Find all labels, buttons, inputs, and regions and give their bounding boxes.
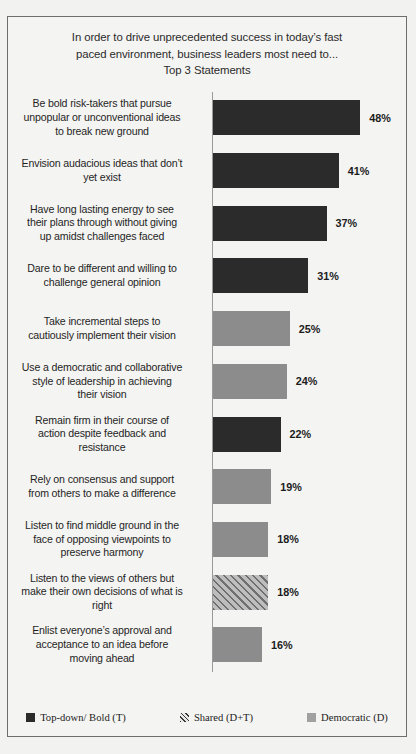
bar-category-label-line: from others to make a difference	[8, 487, 196, 501]
bar-value-label: 25%	[299, 323, 321, 335]
bar-topdown[interactable]	[213, 206, 327, 241]
bar-track: 25%	[204, 302, 406, 355]
bar-category-label-line: face of opposing viewpoints to	[8, 533, 196, 547]
bar-category-label: Have long lasting energy to seetheir pla…	[8, 203, 204, 244]
bar-category-label: Envision audacious ideas that don’tyet e…	[8, 157, 204, 184]
bar-value-label: 16%	[271, 639, 293, 651]
bar-category-label: Be bold risk-takers that pursueunpopular…	[8, 97, 204, 138]
chart-title-line-2: paced environment, business leaders most…	[30, 46, 384, 63]
bar-category-label-line: style of leadership in achieving	[8, 375, 196, 389]
bar-category-label-line: Rely on consensus and support	[8, 473, 196, 487]
chart-legend: Top-down/ Bold (T)Shared (D+T)Democratic…	[8, 712, 406, 723]
bar-democratic[interactable]	[213, 364, 287, 399]
bar-category-label-line: yet exist	[8, 171, 196, 185]
bar-category-label: Listen to the views of others butmake th…	[8, 572, 204, 613]
bar-category-label: Dare to be different and willing tochall…	[8, 262, 204, 289]
bar-row: Listen to the views of others butmake th…	[8, 566, 406, 619]
bar-category-label-line: preserve harmony	[8, 546, 196, 560]
bar-category-label-line: challenge general opinion	[8, 276, 196, 290]
legend-item-topdown[interactable]: Top-down/ Bold (T)	[26, 712, 126, 723]
legend-item-democratic[interactable]: Democratic (D)	[307, 712, 388, 723]
bar-track: 48%	[204, 92, 406, 145]
bar-track: 19%	[204, 460, 406, 513]
chart-title: In order to drive unprecedented success …	[30, 29, 384, 79]
bar-row: Rely on consensus and supportfrom others…	[8, 460, 406, 513]
bar-category-label-line: up amidst challenges faced	[8, 230, 196, 244]
bar-democratic[interactable]	[213, 469, 271, 504]
bar-category-label-line: their plans through without giving	[8, 216, 196, 230]
bar-track: 18%	[204, 566, 406, 619]
bar-value-label: 22%	[290, 428, 312, 440]
bar-category-label: Enlist everyone’s approval andacceptance…	[8, 624, 204, 665]
legend-item-shared[interactable]: Shared (D+T)	[180, 712, 253, 723]
legend-item-label: Shared (D+T)	[194, 712, 253, 723]
bar-category-label-line: resistance	[8, 441, 196, 455]
bar-topdown[interactable]	[213, 153, 339, 188]
bar-category-label-line: Be bold risk-takers that pursue	[8, 97, 196, 111]
bar-track: 24%	[204, 355, 406, 408]
bar-track: 37%	[204, 197, 406, 250]
bar-track: 22%	[204, 408, 406, 461]
plot-area: Be bold risk-takers that pursueunpopular…	[8, 92, 406, 684]
legend-item-label: Democratic (D)	[321, 712, 388, 723]
bar-value-label: 18%	[277, 533, 299, 545]
bar-topdown[interactable]	[213, 417, 281, 452]
bar-democratic[interactable]	[213, 522, 268, 557]
bar-category-label-line: their vision	[8, 388, 196, 402]
bar-category-label-line: Remain firm in their course of	[8, 414, 196, 428]
bar-row: Take incremental steps tocautiously impl…	[8, 302, 406, 355]
bar-value-label: 37%	[336, 217, 358, 229]
bar-category-label-line: Listen to find middle ground in the	[8, 519, 196, 533]
bar-track: 16%	[204, 619, 406, 672]
bar-value-label: 48%	[369, 112, 391, 124]
bar-category-label: Use a democratic and collaborativestyle …	[8, 361, 204, 402]
bar-category-label-line: Take incremental steps to	[8, 315, 196, 329]
bar-track: 31%	[204, 250, 406, 303]
legend-swatch-icon	[26, 713, 35, 722]
bar-value-label: 24%	[296, 375, 318, 387]
legend-swatch-icon	[307, 713, 316, 722]
bar-row: Use a democratic and collaborativestyle …	[8, 355, 406, 408]
bar-track: 18%	[204, 513, 406, 566]
bar-row: Be bold risk-takers that pursueunpopular…	[8, 92, 406, 145]
bar-value-label: 19%	[280, 481, 302, 493]
bar-category-label-line: action despite feedback and	[8, 427, 196, 441]
bar-category-label-line: right	[8, 599, 196, 613]
bar-category-label-line: unpopular or unconventional ideas	[8, 111, 196, 125]
chart-title-line-3: Top 3 Statements	[30, 62, 384, 79]
bar-category-label-line: acceptance to an idea before	[8, 638, 196, 652]
bar-democratic[interactable]	[213, 627, 262, 662]
bar-category-label-line: moving ahead	[8, 652, 196, 666]
bar-row: Remain firm in their course ofaction des…	[8, 408, 406, 461]
bar-track: 41%	[204, 144, 406, 197]
bar-row: Enlist everyone’s approval andacceptance…	[8, 619, 406, 672]
bar-row: Listen to find middle ground in theface …	[8, 513, 406, 566]
bar-democratic[interactable]	[213, 311, 290, 346]
bar-topdown[interactable]	[213, 258, 308, 293]
bar-topdown[interactable]	[213, 100, 360, 135]
bar-category-label: Take incremental steps tocautiously impl…	[8, 315, 204, 342]
bar-category-label: Listen to find middle ground in theface …	[8, 519, 204, 560]
bar-category-label: Rely on consensus and supportfrom others…	[8, 473, 204, 500]
bar-row: Envision audacious ideas that don’tyet e…	[8, 144, 406, 197]
bar-value-label: 18%	[277, 586, 299, 598]
legend-item-label: Top-down/ Bold (T)	[40, 712, 126, 723]
chart-title-line-1: In order to drive unprecedented success …	[30, 29, 384, 46]
bar-category-label-line: Listen to the views of others but	[8, 572, 196, 586]
bar-category-label-line: to break new ground	[8, 125, 196, 139]
bar-row: Dare to be different and willing tochall…	[8, 250, 406, 303]
bar-category-label-line: Use a democratic and collaborative	[8, 361, 196, 375]
bar-category-label-line: Enlist everyone’s approval and	[8, 624, 196, 638]
bar-category-label-line: Have long lasting energy to see	[8, 203, 196, 217]
bar-value-label: 41%	[348, 165, 370, 177]
bar-category-label-line: make their own decisions of what is	[8, 585, 196, 599]
chart-frame: In order to drive unprecedented success …	[7, 16, 407, 737]
bar-category-label-line: Dare to be different and willing to	[8, 262, 196, 276]
bar-category-label-line: cautiously implement their vision	[8, 329, 196, 343]
legend-swatch-icon	[180, 713, 189, 722]
bar-category-label: Remain firm in their course ofaction des…	[8, 414, 204, 455]
bar-shared[interactable]	[213, 575, 268, 610]
bar-category-label-line: Envision audacious ideas that don’t	[8, 157, 196, 171]
bar-row: Have long lasting energy to seetheir pla…	[8, 197, 406, 250]
bar-value-label: 31%	[317, 270, 339, 282]
